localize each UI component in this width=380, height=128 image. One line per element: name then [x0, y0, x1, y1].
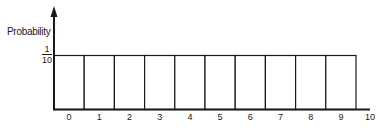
bar-5 [205, 56, 235, 110]
bar-0 [54, 56, 84, 110]
bars-group [54, 56, 356, 110]
bar-2 [114, 56, 144, 110]
x-tick-label-8: 8 [303, 112, 319, 122]
x-tick-label-0: 0 [61, 112, 77, 122]
y-tick-denominator: 10 [41, 56, 53, 64]
bar-8 [296, 56, 326, 110]
x-tick-label-1: 1 [91, 112, 107, 122]
bar-4 [175, 56, 205, 110]
bar-7 [265, 56, 295, 110]
x-tick-label-2: 2 [122, 112, 138, 122]
y-tick-numerator: 1 [41, 45, 53, 53]
bar-6 [235, 56, 265, 110]
y-axis-label: Probability [7, 26, 50, 37]
x-tick-label-4: 4 [182, 112, 198, 122]
x-tick-label-6: 6 [242, 112, 258, 122]
x-tick-label-9: 9 [333, 112, 349, 122]
bar-3 [145, 56, 175, 110]
x-tick-label-7: 7 [273, 112, 289, 122]
uniform-distribution-chart: Probability 1 10 012345678910 [0, 0, 380, 128]
y-tick-label-one-tenth: 1 10 [41, 45, 53, 64]
x-tick-label-5: 5 [212, 112, 228, 122]
y-axis-arrow-icon [51, 6, 58, 17]
bar-1 [84, 56, 114, 110]
plot-area [0, 0, 380, 128]
x-tick-label-10: 10 [362, 112, 378, 122]
x-tick-label-3: 3 [152, 112, 168, 122]
bar-9 [326, 56, 356, 110]
